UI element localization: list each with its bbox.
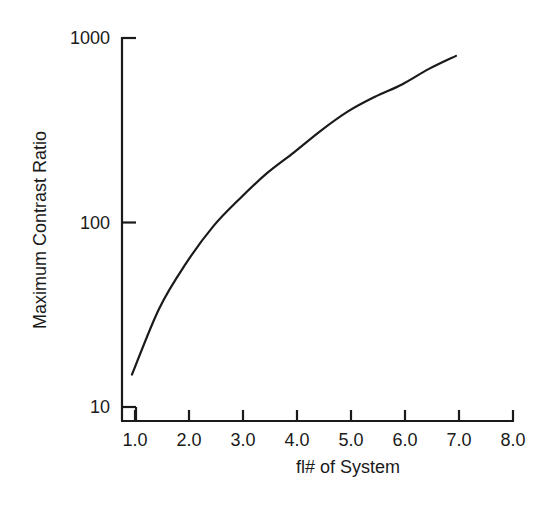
y-tick-label: 10 bbox=[90, 397, 110, 417]
axes bbox=[121, 37, 514, 421]
y-ticks: 101001000 bbox=[70, 28, 136, 421]
x-ticks: 1.02.03.04.05.06.07.08.0 bbox=[122, 410, 525, 450]
x-axis-title: fl# of System bbox=[296, 457, 400, 477]
y-tick-label: 100 bbox=[80, 213, 110, 233]
x-tick-label: 6.0 bbox=[392, 430, 417, 450]
x-tick-label: 2.0 bbox=[176, 430, 201, 450]
x-tick-label: 7.0 bbox=[446, 430, 471, 450]
contrast-ratio-chart: 101001000 1.02.03.04.05.06.07.08.0 fl# o… bbox=[0, 0, 550, 510]
x-tick-label: 4.0 bbox=[284, 430, 309, 450]
x-tick-label: 8.0 bbox=[500, 430, 525, 450]
x-tick-label: 1.0 bbox=[122, 430, 147, 450]
data-line bbox=[132, 56, 456, 375]
y-tick-label: 1000 bbox=[70, 28, 110, 48]
x-tick-label: 3.0 bbox=[230, 430, 255, 450]
y-axis-title: Maximum Contrast Ratio bbox=[30, 131, 50, 329]
x-tick-label: 5.0 bbox=[338, 430, 363, 450]
